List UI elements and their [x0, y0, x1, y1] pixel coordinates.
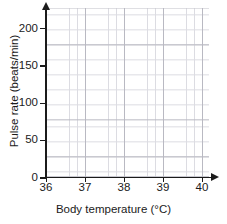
x-tick-label-39: 39 — [148, 181, 178, 193]
y-tick-mark-150 — [40, 65, 46, 66]
x-tick-label-38: 38 — [109, 181, 139, 193]
y-axis-title: Pulse rate (beats/min) — [8, 1, 20, 181]
x-tick-label-40: 40 — [187, 181, 217, 193]
plot-area-graph-paper — [46, 8, 209, 177]
y-axis-arrowhead-icon — [42, 2, 50, 10]
y-tick-mark-50 — [40, 140, 46, 141]
y-tick-label-150: 150 — [19, 60, 38, 72]
x-tick-label-36: 36 — [31, 181, 61, 193]
x-axis-line — [45, 177, 215, 179]
pulse-rate-vs-body-temperature-chart: 200 150 100 50 0 36 37 38 39 40 Body tem… — [0, 0, 227, 224]
x-tick-label-37: 37 — [70, 181, 100, 193]
y-tick-label-200: 200 — [19, 23, 38, 35]
y-tick-label-50: 50 — [25, 134, 38, 146]
y-tick-mark-200 — [40, 28, 46, 29]
y-tick-mark-100 — [40, 103, 46, 104]
x-axis-title: Body temperature (°C) — [0, 203, 227, 215]
y-tick-label-100: 100 — [19, 97, 38, 109]
y-axis-line — [45, 9, 47, 178]
